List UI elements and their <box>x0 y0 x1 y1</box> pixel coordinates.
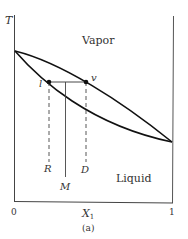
axis-x-label: X1 <box>81 207 94 221</box>
x-axis <box>14 202 173 204</box>
point-v-label: v <box>91 72 97 83</box>
region-vapor-label: Vapor <box>81 34 115 47</box>
point-v-dot <box>84 80 89 85</box>
vapor-curve <box>15 51 172 142</box>
liquid-curve <box>15 51 172 142</box>
y-axis-right <box>173 16 174 203</box>
point-l-dot <box>47 80 52 85</box>
region-liquid-label: Liquid <box>116 172 152 185</box>
axis-y-label: T <box>5 14 14 27</box>
caption: (a) <box>82 223 94 233</box>
x-tick-1: 1 <box>169 207 175 217</box>
point-l-label: l <box>39 78 42 89</box>
x-tick-0: 0 <box>11 207 17 217</box>
phase-diagram: T Vapor l v R D M Liquid 0 X1 1 (a) <box>0 0 188 239</box>
marker-m-label: M <box>59 181 71 192</box>
marker-d-label: D <box>80 164 89 175</box>
marker-r-label: R <box>43 163 52 174</box>
